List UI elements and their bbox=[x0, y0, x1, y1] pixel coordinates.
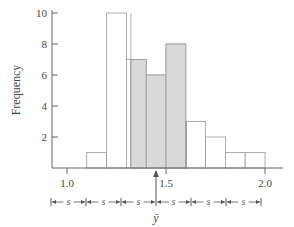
y-axis-title: Frequency bbox=[9, 65, 23, 116]
y-tick-label: 8 bbox=[42, 38, 48, 50]
x-tick-label: 1.0 bbox=[60, 177, 74, 189]
histogram-bar bbox=[87, 153, 107, 169]
histogram-chart: 2468101.01.52.0 ssssss Frequency ȳ bbox=[0, 0, 294, 227]
s-label: s bbox=[242, 196, 246, 207]
shaded-bar-portion bbox=[166, 44, 186, 168]
y-tick-label: 4 bbox=[42, 100, 48, 112]
shaded-bar-portion bbox=[146, 75, 166, 168]
y-tick-label: 10 bbox=[36, 7, 48, 19]
histogram-bar bbox=[186, 122, 206, 169]
x-tick-label: 2.0 bbox=[258, 177, 272, 189]
s-label: s bbox=[102, 196, 106, 207]
s-label: s bbox=[67, 196, 71, 207]
s-label: s bbox=[207, 196, 211, 207]
arrow-head-icon bbox=[153, 170, 159, 177]
y-tick-label: 2 bbox=[42, 131, 48, 143]
histogram-bar bbox=[206, 137, 226, 168]
s-label: s bbox=[172, 196, 176, 207]
shaded-one-sd-region bbox=[131, 13, 186, 168]
y-tick-label: 6 bbox=[42, 69, 48, 81]
s-label: s bbox=[137, 196, 141, 207]
histogram-bar bbox=[107, 13, 127, 168]
mean-label: ȳ bbox=[152, 211, 159, 225]
histogram-bar bbox=[245, 153, 265, 169]
shaded-bar-portion bbox=[131, 60, 146, 169]
histogram-bar bbox=[225, 153, 245, 169]
x-tick-label: 1.5 bbox=[159, 177, 173, 189]
